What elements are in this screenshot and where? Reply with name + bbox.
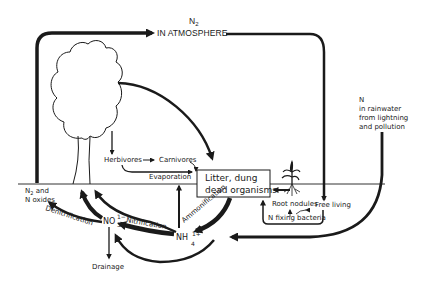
arrow-tree-to-litter [118,83,212,158]
svg-text:and pollution: and pollution [359,123,405,131]
svg-text:in rainwater: in rainwater [359,105,401,113]
arrow-ammonium-recycle-to-nitrate [116,236,214,262]
herbivores-label: Herbivores [104,156,142,164]
rainwater-label: N in rainwater from lightning and pollut… [359,96,408,131]
svg-text:from lightning: from lightning [359,114,408,122]
svg-text:N: N [359,96,364,104]
svg-text:NO: NO [103,217,115,226]
nitrogen-cycle-diagram: Herbivores Carnivores Evaporation Litter… [0,0,429,288]
evaporation-label: Evaporation [149,173,191,181]
svg-text:NH: NH [176,233,188,242]
root-nodules-label: Root nodules [272,200,318,208]
atmosphere-label: N2 IN ATMOSPHERE [157,16,228,38]
n2-oxides-label: N2 and N oxides [25,187,55,204]
ammonium-label: NH 1+ 4 [176,230,201,247]
svg-text:N2 and: N2 and [25,187,49,196]
svg-text:IN ATMOSPHERE: IN ATMOSPHERE [157,28,228,38]
n-fixing-bacteria-label: N fixing bacteria [268,214,326,222]
drainage-label: Drainage [92,263,124,271]
svg-text:3: 3 [117,221,121,228]
svg-text:N2: N2 [189,16,199,27]
litter-line1: Litter, dung [205,173,257,183]
arrow-herbivores-to-litter [122,165,192,172]
svg-text:4: 4 [191,240,195,247]
svg-text:N oxides: N oxides [25,196,55,204]
free-living-label: Free living [315,201,351,209]
svg-text:1+: 1+ [192,230,201,237]
denitrification-label: Denitrification [44,204,94,227]
